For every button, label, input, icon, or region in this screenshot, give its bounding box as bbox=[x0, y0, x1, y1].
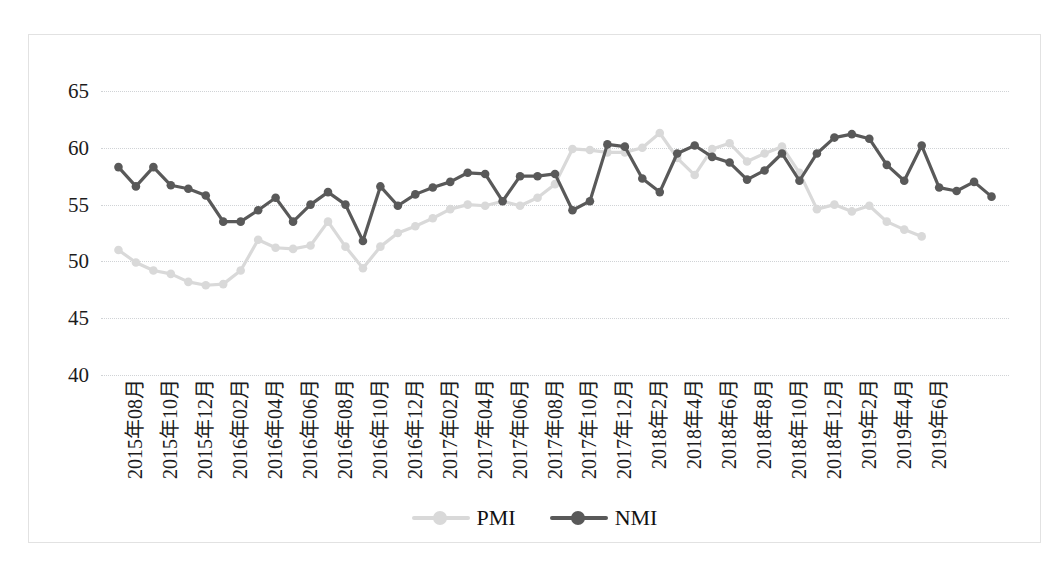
x-axis-tick-label: 2017年02月 bbox=[440, 379, 460, 479]
series-pmi bbox=[114, 129, 926, 290]
x-axis-tick-label: 2017年04月 bbox=[475, 379, 495, 479]
x-axis-tick-label: 2018年6月 bbox=[719, 379, 739, 469]
data-point bbox=[638, 174, 647, 183]
data-point bbox=[498, 197, 507, 206]
data-point bbox=[254, 236, 263, 245]
gridline bbox=[101, 375, 1009, 376]
data-point bbox=[795, 176, 804, 185]
data-point bbox=[743, 175, 752, 184]
x-axis-tick-label: 2016年06月 bbox=[300, 379, 320, 479]
data-point bbox=[289, 245, 298, 254]
x-axis-tick-label: 2016年02月 bbox=[230, 379, 250, 479]
x-axis-tick-label: 2015年08月 bbox=[125, 379, 145, 479]
x-axis-tick-label: 2016年10月 bbox=[370, 379, 390, 479]
data-point bbox=[760, 149, 769, 158]
data-point bbox=[725, 158, 734, 167]
data-point bbox=[394, 229, 403, 238]
data-point bbox=[184, 184, 193, 193]
data-point bbox=[219, 280, 228, 289]
data-point bbox=[132, 258, 141, 267]
data-point bbox=[813, 149, 822, 158]
x-axis-tick-label: 2015年10月 bbox=[160, 379, 180, 479]
data-point bbox=[324, 217, 333, 226]
data-point bbox=[481, 201, 490, 210]
data-point bbox=[306, 241, 315, 250]
x-axis-tick-label: 2017年12月 bbox=[614, 379, 634, 479]
data-point bbox=[341, 242, 350, 251]
data-point bbox=[167, 270, 176, 279]
data-point bbox=[236, 266, 245, 275]
data-point bbox=[411, 222, 420, 231]
data-point bbox=[446, 205, 455, 214]
data-point bbox=[987, 192, 996, 201]
legend-label: PMI bbox=[477, 507, 516, 529]
x-axis: 2015年08月2015年10月2015年12月2016年02月2016年04月… bbox=[101, 379, 1009, 505]
data-point bbox=[586, 146, 595, 155]
data-point bbox=[376, 242, 385, 251]
x-axis-tick-label: 2019年4月 bbox=[894, 379, 914, 469]
legend-item-pmi: PMI bbox=[412, 507, 516, 529]
legend-marker-icon bbox=[412, 511, 470, 525]
legend-label: NMI bbox=[615, 507, 658, 529]
legend-item-nmi: NMI bbox=[550, 507, 658, 529]
data-point bbox=[865, 201, 874, 210]
data-point bbox=[428, 183, 437, 192]
y-axis-tick-label: 45 bbox=[49, 308, 89, 329]
data-point bbox=[743, 157, 752, 166]
y-axis-tick-label: 60 bbox=[49, 137, 89, 158]
data-point bbox=[568, 206, 577, 215]
data-point bbox=[830, 133, 839, 142]
data-point bbox=[219, 217, 228, 226]
data-point bbox=[533, 193, 542, 202]
x-axis-tick-label: 2017年10月 bbox=[579, 379, 599, 479]
x-axis-tick-label: 2015年12月 bbox=[195, 379, 215, 479]
data-point bbox=[673, 149, 682, 158]
data-point bbox=[603, 140, 612, 149]
x-axis-tick-label: 2018年4月 bbox=[684, 379, 704, 469]
data-point bbox=[359, 264, 368, 273]
data-point bbox=[428, 214, 437, 223]
x-axis-tick-label: 2016年08月 bbox=[335, 379, 355, 479]
x-axis-tick-label: 2016年04月 bbox=[265, 379, 285, 479]
data-point bbox=[324, 188, 333, 197]
data-point bbox=[778, 149, 787, 158]
data-point bbox=[725, 139, 734, 148]
data-point bbox=[359, 237, 368, 246]
data-point bbox=[865, 134, 874, 143]
y-axis-tick-label: 55 bbox=[49, 194, 89, 215]
chart-figure: 404550556065 2015年08月2015年10月2015年12月201… bbox=[28, 34, 1041, 543]
data-point bbox=[271, 193, 280, 202]
data-point bbox=[184, 278, 193, 287]
data-point bbox=[551, 170, 560, 179]
x-axis-tick-label: 2018年8月 bbox=[754, 379, 774, 469]
plot-area bbox=[101, 91, 1009, 375]
data-point bbox=[411, 190, 420, 199]
data-point bbox=[848, 130, 857, 139]
data-point bbox=[690, 171, 699, 180]
x-axis-tick-label: 2018年12月 bbox=[824, 379, 844, 479]
data-point bbox=[655, 188, 664, 197]
data-point bbox=[533, 172, 542, 181]
x-axis-tick-label: 2017年08月 bbox=[545, 379, 565, 479]
data-point bbox=[306, 200, 315, 209]
data-point bbox=[952, 187, 961, 196]
data-point bbox=[586, 197, 595, 206]
data-point bbox=[463, 168, 472, 177]
data-point bbox=[167, 181, 176, 190]
data-point bbox=[708, 153, 717, 162]
data-point bbox=[655, 129, 664, 138]
series-container bbox=[101, 91, 1009, 375]
data-point bbox=[149, 163, 158, 172]
data-point bbox=[848, 207, 857, 216]
data-point bbox=[463, 200, 472, 209]
data-point bbox=[900, 176, 909, 185]
data-point bbox=[917, 141, 926, 150]
data-point bbox=[446, 178, 455, 187]
x-axis-tick-label: 2018年2月 bbox=[649, 379, 669, 469]
data-point bbox=[394, 201, 403, 210]
data-point bbox=[900, 225, 909, 234]
data-point bbox=[760, 166, 769, 175]
data-point bbox=[149, 266, 158, 275]
data-point bbox=[341, 200, 350, 209]
x-axis-tick-label: 2017年06月 bbox=[510, 379, 530, 479]
